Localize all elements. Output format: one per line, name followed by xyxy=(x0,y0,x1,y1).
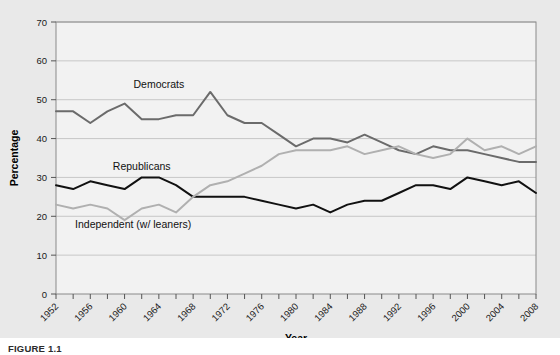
x-axis-tick-label: 1964 xyxy=(141,301,164,324)
x-axis-tick-label: 1984 xyxy=(312,301,335,324)
x-axis-tick-label: 2008 xyxy=(518,301,541,324)
figure-caption: FIGURE 1.1 xyxy=(8,343,62,354)
x-axis-tick-label: 1992 xyxy=(381,301,404,324)
figure-panel: 010203040506070Percentage195219561960196… xyxy=(0,0,560,338)
x-axis-tick-label: 1968 xyxy=(175,301,198,324)
series-label-independent-w-leaners: Independent (w/ leaners) xyxy=(75,218,191,230)
x-axis-tick-label: 1988 xyxy=(346,301,369,324)
y-axis-tick-label: 60 xyxy=(36,55,47,66)
y-axis-tick-label: 0 xyxy=(42,289,47,300)
y-axis-title: Percentage xyxy=(8,130,20,187)
series-label-republicans: Republicans xyxy=(113,160,171,172)
x-axis-tick-label: 1960 xyxy=(106,301,129,324)
x-axis-tick-label: 1996 xyxy=(415,301,438,324)
x-axis-tick-label: 1972 xyxy=(209,301,232,324)
figure-caption-strip: FIGURE 1.1 xyxy=(0,338,560,355)
y-axis-tick-label: 10 xyxy=(36,250,47,261)
x-axis-tick-label: 1952 xyxy=(38,301,61,324)
y-axis-tick-label: 50 xyxy=(36,94,47,105)
y-axis-tick-label: 40 xyxy=(36,133,47,144)
x-axis-tick-label: 1976 xyxy=(243,301,266,324)
y-axis-tick-label: 20 xyxy=(36,211,47,222)
x-axis-tick-label: 2000 xyxy=(449,301,472,324)
y-axis: 010203040506070 xyxy=(36,17,56,300)
line-chart: 010203040506070Percentage195219561960196… xyxy=(0,0,560,338)
x-axis-tick-label: 1980 xyxy=(278,301,301,324)
plot-area-background xyxy=(56,22,536,294)
x-axis-tick-label: 1956 xyxy=(72,301,95,324)
y-axis-tick-label: 30 xyxy=(36,172,47,183)
x-axis-tick-label: 2004 xyxy=(483,301,506,324)
x-axis: 1952195619601964196819721976198019841988… xyxy=(38,294,541,323)
series-label-democrats: Democrats xyxy=(133,78,184,90)
y-axis-tick-label: 70 xyxy=(36,17,47,28)
